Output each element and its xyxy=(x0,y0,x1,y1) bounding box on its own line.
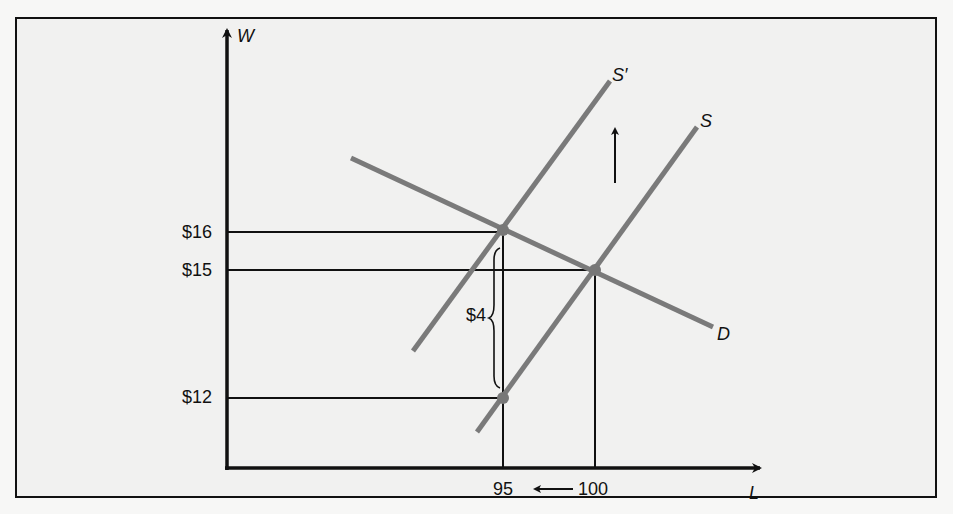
supply-curve xyxy=(477,127,697,432)
x-tick-95: 95 xyxy=(493,480,513,498)
y-tick-16: $16 xyxy=(182,223,212,241)
worker-wage-dot xyxy=(497,392,509,404)
y-tick-15: $15 xyxy=(182,261,212,279)
x-axis-label: L xyxy=(749,484,759,502)
diagram-canvas xyxy=(0,0,953,514)
supply-curve-shifted xyxy=(413,81,610,351)
demand-label: D xyxy=(717,325,730,343)
supply-label: S xyxy=(700,112,712,130)
equilibrium-original-dot xyxy=(589,264,601,276)
supply-shifted-label: S′ xyxy=(612,66,627,84)
equilibrium-new-dot xyxy=(497,224,509,236)
tax-wedge-label: $4 xyxy=(466,306,486,324)
y-tick-12: $12 xyxy=(182,388,212,406)
x-tick-100: 100 xyxy=(578,480,608,498)
y-axis-label: W xyxy=(237,27,254,45)
